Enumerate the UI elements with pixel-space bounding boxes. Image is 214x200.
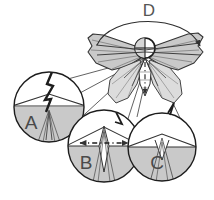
figure-container: D A [0,0,214,200]
label-d: D [143,1,155,20]
label-b: B [80,152,93,173]
label-c: C [150,152,164,173]
insect-diagram-svg: D A [0,0,214,200]
label-a: A [25,112,38,133]
